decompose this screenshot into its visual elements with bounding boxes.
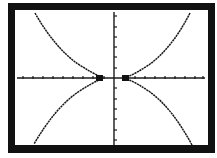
marked-point-left	[96, 75, 103, 81]
curve-upper-left	[35, 13, 101, 77]
graph-plot	[0, 0, 217, 158]
curve-lower-right	[127, 79, 192, 145]
curve-upper-right	[127, 13, 190, 77]
marked-point-right	[122, 75, 129, 81]
plot-curves	[34, 13, 192, 145]
curve-lower-left	[34, 79, 101, 144]
